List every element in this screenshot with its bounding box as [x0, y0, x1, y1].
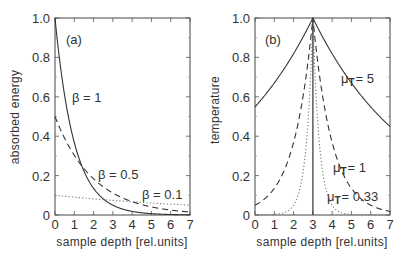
figure: 0123456700.20.40.60.81.0 (a) β = 1 β = 0…: [0, 0, 403, 259]
annotation-mu-1: μT= 1: [333, 160, 366, 177]
mu-subscript: T: [349, 77, 355, 88]
y-tick-label: 1.0: [232, 11, 250, 26]
x-axis-label-a: sample depth [rel.units]: [56, 235, 187, 249]
mu-symbol: μ: [327, 189, 335, 204]
y-tick-label: 0.6: [232, 90, 250, 105]
y-tick-label: 0: [243, 208, 250, 223]
x-tick-label: 2: [290, 217, 297, 232]
x-axis-label-b: sample depth [rel.units]: [256, 235, 387, 249]
series-line--1: [55, 18, 190, 215]
x-tick-label: 1: [71, 217, 78, 232]
y-tick-label: 0.4: [32, 129, 50, 144]
mu-subscript: T: [335, 195, 341, 206]
x-tick-label: 7: [186, 217, 193, 232]
y-tick-label: 0.4: [232, 129, 250, 144]
panel-a: 0123456700.20.40.60.81.0 (a) β = 1 β = 0…: [8, 11, 194, 249]
mu-symbol: μ: [333, 160, 341, 175]
x-tick-label: 1: [271, 217, 278, 232]
annotation-beta-0-1: β = 0.1: [142, 187, 182, 202]
y-axis-label-b: temperature: [208, 76, 222, 144]
curves-b: [255, 18, 390, 215]
y-tick-label: 0.6: [32, 90, 50, 105]
x-tick-label: 3: [309, 217, 316, 232]
panel-label-b: (b): [265, 32, 281, 47]
x-tick-label: 4: [129, 217, 136, 232]
annotation-mu-5: μT= 5: [341, 71, 374, 88]
y-tick-label: 1.0: [32, 11, 50, 26]
x-tick-label: 4: [329, 217, 336, 232]
y-axis-label-a: absorbed energy: [8, 70, 22, 165]
plot-frame-a: [55, 18, 190, 215]
annotation-beta-1: β = 1: [72, 90, 102, 105]
x-tick-label: 6: [367, 217, 374, 232]
y-tick-label: 0.8: [32, 50, 50, 65]
y-tick-label: 0: [43, 208, 50, 223]
y-tick-label: 0.2: [232, 169, 250, 184]
x-tick-label: 2: [90, 217, 97, 232]
x-tick-label: 5: [148, 217, 155, 232]
panel-label-a: (a): [66, 32, 82, 47]
annotation-beta-0-5: β = 0.5: [98, 167, 138, 182]
x-tick-label: 5: [348, 217, 355, 232]
annotation-mu-0-33: μT= 0.33: [327, 189, 378, 206]
mu-value: = 0.33: [342, 189, 379, 204]
x-tick-label: 0: [251, 217, 258, 232]
plot-frame-b: [255, 18, 390, 215]
panel-b: 0123456700.20.40.60.81.0 (b) μT= 5 μT= 1…: [208, 11, 394, 249]
x-tick-label: 3: [109, 217, 116, 232]
curves-a: [55, 18, 190, 215]
mu-subscript: T: [341, 166, 347, 177]
series-line--t-0-33: [255, 18, 390, 215]
x-tick-label: 6: [167, 217, 174, 232]
mu-value: = 5: [356, 71, 374, 86]
y-tick-label: 0.2: [32, 169, 50, 184]
mu-value: = 1: [348, 160, 366, 175]
y-tick-label: 0.8: [232, 50, 250, 65]
x-tick-label: 0: [51, 217, 58, 232]
series-line--t-1: [255, 18, 390, 211]
mu-symbol: μ: [341, 71, 349, 86]
x-tick-label: 7: [386, 217, 393, 232]
